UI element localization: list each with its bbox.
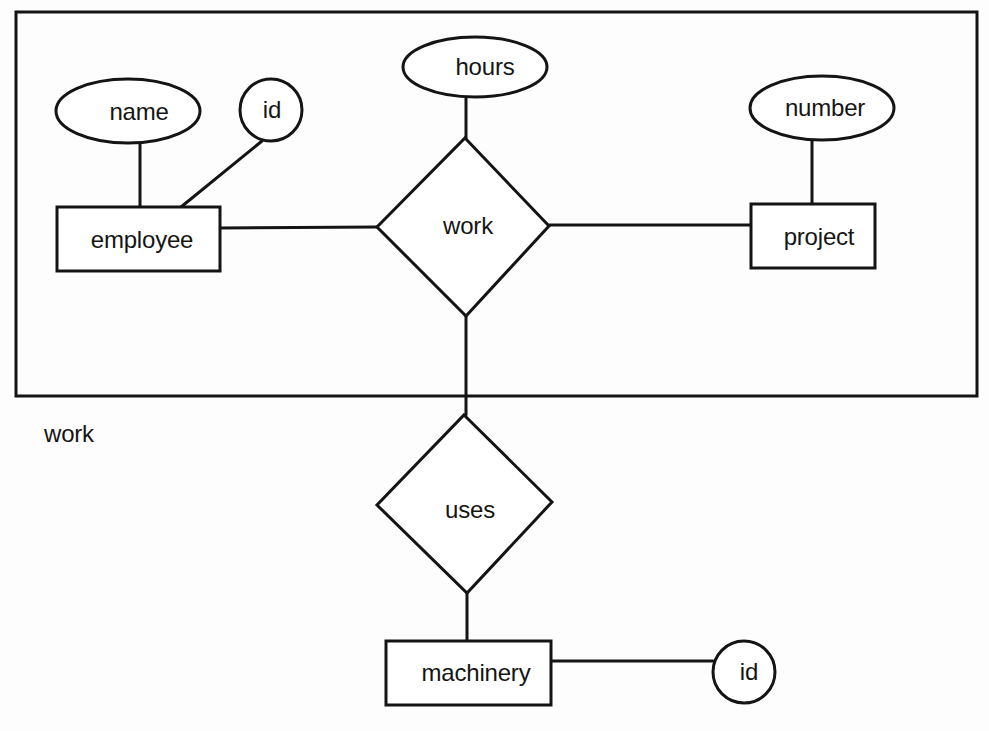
entity-project-label: project (784, 223, 855, 251)
connector-employee-work (220, 227, 377, 228)
connector-id-employee (181, 141, 262, 207)
er-diagram-canvas: name id employee hours work number proje… (0, 0, 989, 731)
attribute-machinery-id-label: id (740, 658, 758, 686)
attribute-employee-id-label: id (263, 96, 281, 124)
attribute-number-label: number (785, 94, 865, 122)
entity-employee-label: employee (91, 226, 193, 254)
relationship-uses-label: uses (445, 496, 495, 524)
aggregation-work-label: work (44, 420, 94, 448)
entity-machinery-label: machinery (422, 659, 531, 687)
attribute-hours-label: hours (455, 53, 514, 81)
relationship-work-label: work (443, 212, 493, 240)
attribute-name-label: name (109, 98, 168, 126)
